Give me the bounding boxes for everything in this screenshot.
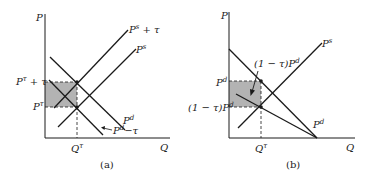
x-axis-label: Q [160,142,168,153]
arrow-head-icon [101,126,105,130]
demand-label: Pd [312,118,325,130]
panel-a-caption: (a) [100,159,114,170]
panel-b: P Q Qτ Pd (1 − τ)Pd (1 − τ)Pd Ps Pd (b) [188,10,355,170]
buyer-price-point [259,79,263,83]
quantity-label: Qτ [255,142,267,154]
x-axis-label: Q [346,142,354,153]
net-demand-annotation: (1 − τ)Pd [254,57,300,69]
price-low-label: (1 − τ)Pd [188,101,234,113]
seller-price-point [75,105,79,109]
tax-incidence-figure: P Q Qτ Pτ + τ Pτ Ps + τ Ps Pd Pd−τ (a) P… [0,0,367,180]
seller-price-point [259,105,263,109]
panel-b-caption: (b) [286,159,300,170]
price-low-label: Pτ [32,100,44,112]
demand-minus-tax-label: Pd−τ [112,124,139,136]
supply-plus-tax-label: Ps + τ [128,23,160,35]
y-axis-label: P [35,12,43,23]
supply-label: Ps [321,37,333,49]
net-demand-curve [236,94,317,138]
tax-revenue-area [229,81,261,107]
y-axis-label: P [220,10,228,21]
price-high-label: Pd [215,76,228,88]
price-high-label: Pτ + τ [15,75,47,87]
panel-a: P Q Qτ Pτ + τ Pτ Ps + τ Ps Pd Pd−τ (a) [15,12,170,170]
supply-label: Ps [135,43,147,55]
buyer-price-point [75,80,79,84]
quantity-label: Qτ [71,142,83,154]
